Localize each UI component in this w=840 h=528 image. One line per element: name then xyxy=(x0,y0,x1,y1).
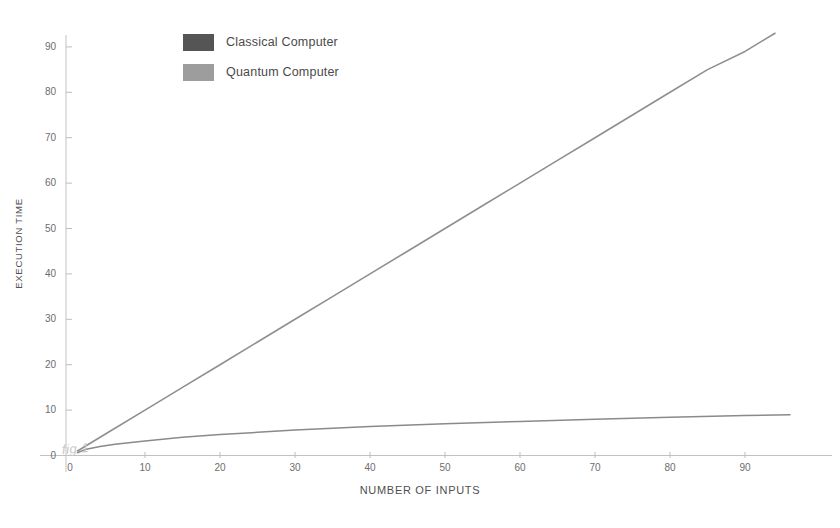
x-tick-label: 10 xyxy=(125,462,165,473)
y-tick-label: 20 xyxy=(22,359,56,370)
chart-container: Classical Computer Quantum Computer 0102… xyxy=(0,0,840,528)
x-axis-title: NUMBER OF INPUTS xyxy=(0,484,840,496)
x-tick-label: 80 xyxy=(650,462,690,473)
y-tick-label: 90 xyxy=(22,41,56,52)
x-tick-label: 40 xyxy=(350,462,390,473)
legend-swatch-quantum-icon xyxy=(183,64,214,81)
x-tick-label: 30 xyxy=(275,462,315,473)
line-quantum-computer xyxy=(78,415,791,453)
y-tick-label: 40 xyxy=(22,268,56,279)
y-tick-label: 0 xyxy=(22,450,56,461)
x-tick-label: 0 xyxy=(50,462,90,473)
y-tick-label: 80 xyxy=(22,86,56,97)
y-tick-label: 70 xyxy=(22,132,56,143)
x-tick-label: 90 xyxy=(725,462,765,473)
y-axis-title: EXECUTION TIME xyxy=(13,164,24,324)
x-tick-label: 60 xyxy=(500,462,540,473)
y-tick-label: 30 xyxy=(22,313,56,324)
x-tick-label: 50 xyxy=(425,462,465,473)
y-tick-label: 60 xyxy=(22,177,56,188)
figure-annotation: fig 1 xyxy=(62,440,90,457)
legend-label-quantum-computer: Quantum Computer xyxy=(226,65,339,79)
line-classical-computer xyxy=(78,33,776,451)
legend-item-classical-computer[interactable]: Classical Computer xyxy=(183,27,443,57)
y-tick-label: 50 xyxy=(22,223,56,234)
legend-swatch-classical-icon xyxy=(183,34,214,51)
legend-item-quantum-computer[interactable]: Quantum Computer xyxy=(183,57,443,87)
axis-lines xyxy=(40,35,832,472)
x-tick-label: 20 xyxy=(200,462,240,473)
chart-legend: Classical Computer Quantum Computer xyxy=(183,27,443,87)
series-lines xyxy=(78,33,791,452)
y-tick-label: 10 xyxy=(22,404,56,415)
x-tick-label: 70 xyxy=(575,462,615,473)
legend-label-classical-computer: Classical Computer xyxy=(226,35,338,49)
